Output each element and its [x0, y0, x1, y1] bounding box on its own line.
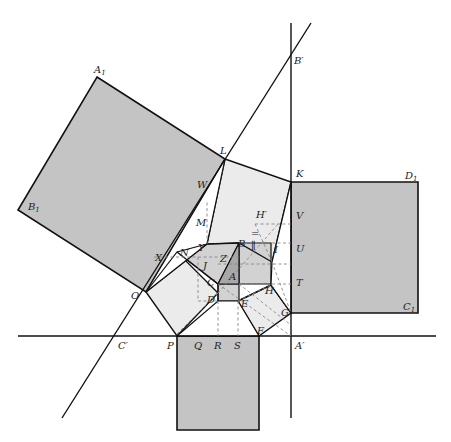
label-h: H — [264, 285, 274, 296]
label-j: J — [201, 260, 208, 271]
label-c-prime: C′ — [118, 340, 129, 351]
label-n: N — [179, 247, 190, 258]
label-q: Q — [194, 340, 202, 351]
label-g: G — [281, 307, 289, 318]
label-d1: D1 — [404, 170, 418, 183]
label-l: L — [219, 145, 227, 156]
label-s: S — [234, 340, 241, 351]
label-m: M — [195, 217, 207, 228]
square-k-d1-c1 — [291, 182, 418, 313]
label-z: Z — [219, 253, 228, 264]
label-a: A — [228, 271, 236, 282]
label-k: K — [295, 168, 304, 179]
label-o: O — [131, 290, 139, 301]
double-tick-mark: = — [251, 228, 259, 239]
parallel-tick-mark: ∥ — [251, 240, 256, 251]
geometry-figure: = ∥ A1 B1 D1 C1 B′ C′ A′ H′ L K W M V U … — [0, 0, 451, 442]
label-a-prime: A′ — [294, 340, 305, 351]
label-h-prime: H′ — [255, 209, 268, 220]
label-b: B — [237, 238, 245, 249]
label-u: U — [296, 243, 305, 254]
label-w: W — [197, 179, 208, 190]
label-e: E — [240, 298, 249, 309]
label-d: D — [206, 294, 215, 305]
label-a1: A1 — [93, 64, 106, 77]
label-b-prime: B′ — [293, 55, 304, 66]
label-p: P — [166, 340, 174, 351]
label-x: X — [154, 252, 163, 263]
label-r: R — [213, 340, 222, 351]
label-f: F — [256, 325, 265, 336]
square-c-a-d-e — [218, 284, 239, 301]
label-c: C — [207, 277, 215, 288]
